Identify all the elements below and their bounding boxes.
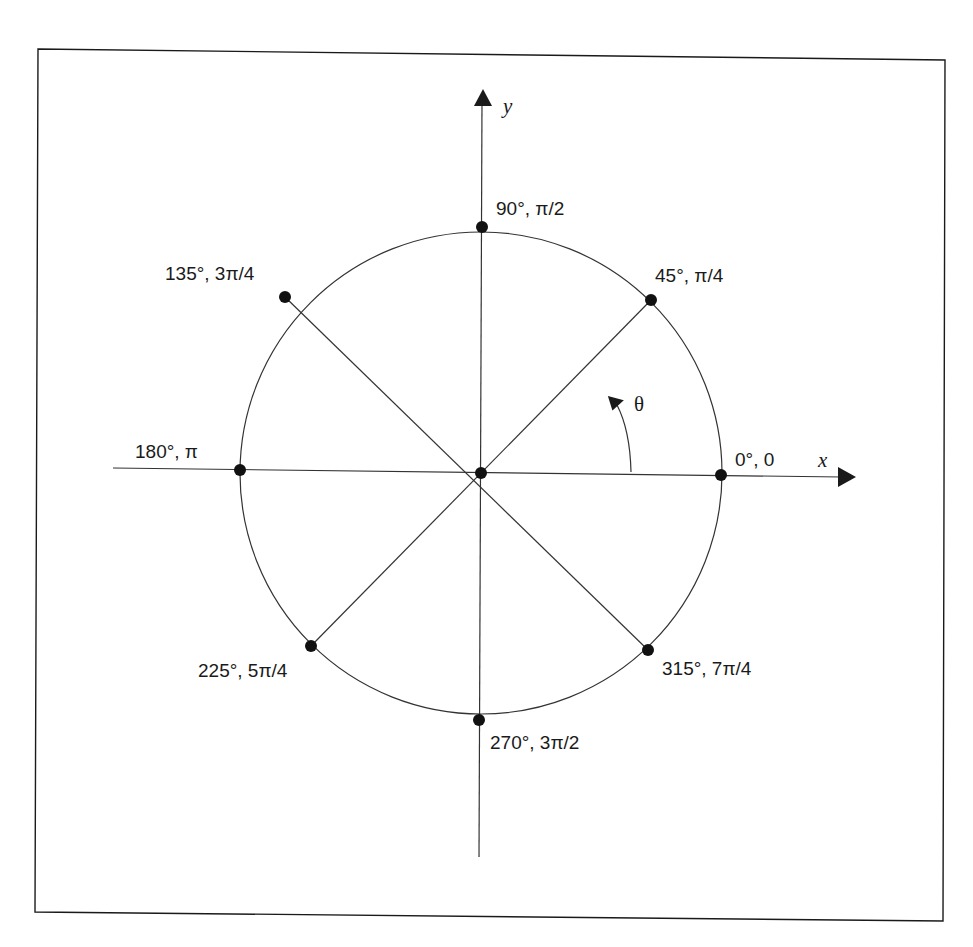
y-axis-arrow-icon	[474, 89, 492, 106]
label-180: 180°, π	[135, 441, 198, 462]
point-270	[473, 714, 485, 726]
label-225: 225°, 5π/4	[198, 660, 288, 681]
theta-label: θ	[634, 392, 644, 416]
label-45: 45°, π/4	[655, 265, 724, 286]
point-135	[279, 291, 291, 303]
label-0: 0°, 0	[735, 449, 774, 470]
diagram-frame	[35, 49, 945, 921]
point-90	[476, 221, 488, 233]
label-90: 90°, π/2	[496, 198, 564, 219]
point-225	[305, 640, 317, 652]
theta-arc	[617, 405, 631, 472]
label-135: 135°, 3π/4	[165, 263, 255, 284]
label-270: 270°, 3π/2	[490, 732, 579, 753]
point-45	[645, 294, 657, 306]
point-center	[475, 467, 487, 479]
theta-arrow-icon	[608, 393, 625, 410]
label-315: 315°, 7π/4	[662, 658, 752, 679]
y-axis-label: y	[501, 94, 513, 118]
unit-circle-diagram: y x θ 90°, π/2 45°, π/4 135°, 3π/4 180°,…	[0, 0, 973, 947]
point-0	[715, 469, 727, 481]
x-axis-arrow-icon	[838, 467, 856, 487]
point-315	[642, 644, 654, 656]
x-axis-label: x	[817, 448, 828, 472]
point-180	[234, 464, 246, 476]
